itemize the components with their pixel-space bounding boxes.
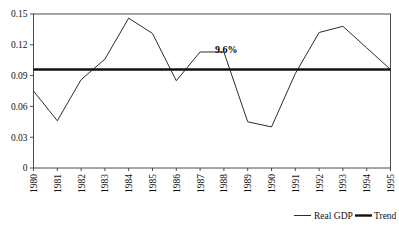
- x-axis-tick-label: 1990: [267, 174, 277, 193]
- y-axis-tick-label: 0.06: [11, 102, 28, 112]
- x-axis-tick-label: 1986: [172, 174, 182, 193]
- y-axis-tick-label: 0.09: [11, 71, 28, 81]
- y-axis-tick-label: 0: [23, 163, 28, 173]
- trend-value-label: 9.6%: [215, 44, 238, 55]
- x-axis-tick-label: 1980: [29, 174, 39, 193]
- x-axis-tick-label: 1994: [362, 174, 372, 193]
- x-axis-tick-label: 1992: [315, 174, 325, 193]
- x-axis-tick-label: 1982: [77, 174, 87, 193]
- x-axis-tick-label: 1988: [219, 174, 229, 193]
- x-axis-tick-label: 1983: [100, 174, 110, 193]
- x-axis-tick-label: 1993: [338, 174, 348, 193]
- legend-label-real-gdp: Real GDP: [314, 211, 353, 221]
- x-axis-tick-label: 1984: [124, 174, 134, 193]
- y-axis-tick-label: 0.03: [11, 133, 28, 143]
- x-axis-tick-label: 1989: [243, 174, 253, 193]
- y-axis-tick-label: 0.12: [11, 40, 28, 50]
- y-axis-tick-label: 0.15: [11, 9, 28, 19]
- chart-container: 00.030.060.090.120.151980198119821983198…: [0, 0, 399, 229]
- line-chart: 00.030.060.090.120.151980198119821983198…: [0, 0, 399, 229]
- x-axis-tick-label: 1995: [386, 174, 396, 193]
- series-line-real-gdp: [34, 18, 391, 127]
- x-axis-tick-label: 1991: [291, 174, 301, 193]
- legend-label-trend: Trend: [374, 211, 397, 221]
- x-axis-tick-label: 1981: [53, 174, 63, 193]
- x-axis-tick-label: 1987: [196, 174, 206, 193]
- plot-area-frame: [34, 14, 391, 168]
- x-axis-tick-label: 1985: [148, 174, 158, 193]
